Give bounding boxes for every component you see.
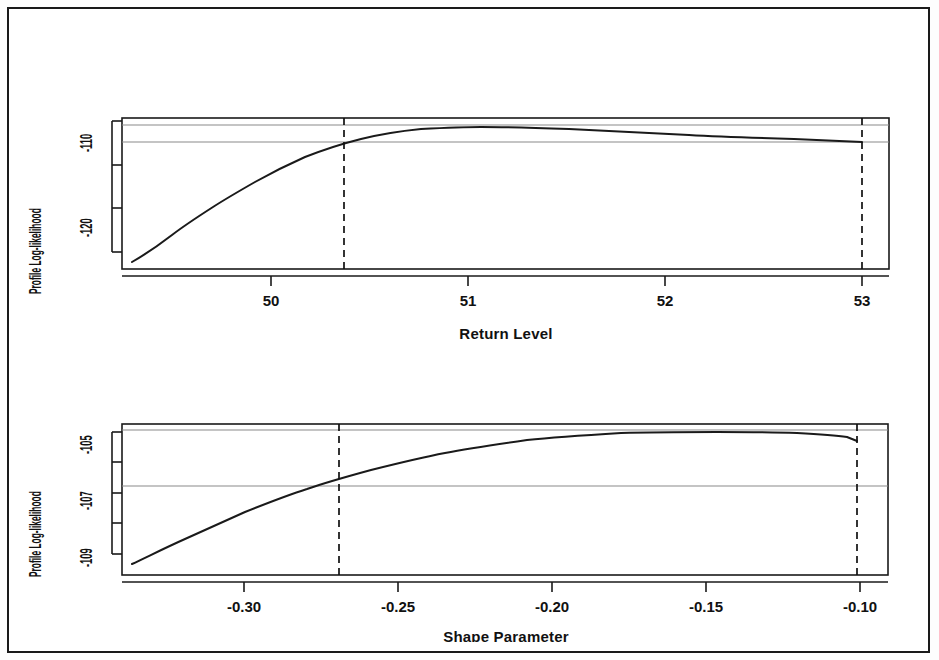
svg-text:50: 50: [263, 292, 280, 309]
bottom-plot-box: [122, 424, 888, 575]
svg-text:-105: -105: [76, 435, 96, 454]
bottom-x-axis: [122, 582, 888, 592]
top-x-tick-labels: 50 51 52 53: [263, 292, 871, 309]
svg-text:52: 52: [657, 292, 674, 309]
bottom-profile-curve: [132, 432, 857, 564]
top-y-axis-label: Profile Log-likelihood: [26, 208, 45, 294]
svg-text:-0.30: -0.30: [227, 598, 261, 615]
bottom-panel: Profile Log-likelihood -105 -107 -109: [9, 392, 929, 642]
bottom-x-axis-label: Shape Parameter: [443, 628, 569, 642]
svg-text:-110: -110: [76, 134, 96, 152]
bottom-confidence-lines: [339, 424, 857, 575]
svg-text:-0.25: -0.25: [381, 598, 415, 615]
svg-text:-0.15: -0.15: [689, 598, 723, 615]
top-confidence-lines: [344, 118, 862, 269]
svg-text:51: 51: [460, 292, 477, 309]
svg-text:-0.20: -0.20: [535, 598, 569, 615]
svg-text:-107: -107: [76, 491, 96, 510]
svg-text:Profile Log-likelihood: Profile Log-likelihood: [26, 491, 45, 577]
top-panel: Profile Log-likelihood -110 -120: [9, 104, 929, 354]
figure-frame: Profile Log-likelihood -110 -120: [7, 7, 930, 653]
bottom-y-axis: [112, 432, 122, 554]
svg-text:Shape Parameter: Shape Parameter: [443, 628, 569, 642]
svg-text:-109: -109: [76, 548, 96, 567]
svg-text:Return Level: Return Level: [459, 325, 552, 342]
bottom-panel-svg: Profile Log-likelihood -105 -107 -109: [9, 392, 929, 642]
svg-text:-120: -120: [76, 218, 96, 237]
top-x-axis-label: Return Level: [459, 325, 552, 342]
top-y-tick-labels: -110 -120: [76, 134, 96, 237]
svg-text:53: 53: [854, 292, 871, 309]
svg-text:-0.10: -0.10: [843, 598, 877, 615]
top-y-axis: [112, 121, 122, 252]
bottom-y-tick-labels: -105 -107 -109: [76, 435, 96, 567]
top-profile-curve: [132, 127, 862, 262]
screenshot-root: Profile Log-likelihood -110 -120: [0, 0, 939, 660]
bottom-y-axis-label: Profile Log-likelihood: [26, 491, 45, 577]
svg-text:Profile Log-likelihood: Profile Log-likelihood: [26, 208, 45, 294]
top-panel-svg: Profile Log-likelihood -110 -120: [9, 104, 929, 354]
top-x-axis: [122, 276, 889, 286]
bottom-x-tick-labels: -0.30 -0.25 -0.20 -0.15 -0.10: [227, 598, 877, 615]
bottom-reference-lines: [122, 430, 888, 486]
